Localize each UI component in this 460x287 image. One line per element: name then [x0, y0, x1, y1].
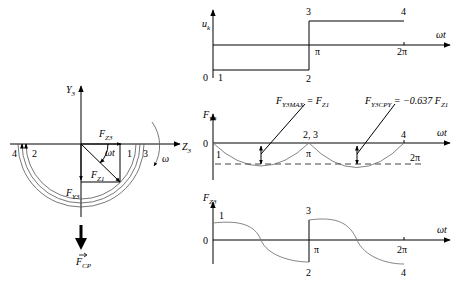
uk-p3: 3 [306, 6, 311, 17]
fz3-p4: 4 [401, 267, 406, 278]
vector-diagram: Y3 Z3 FZ3 FZ1 FY3 ωt ω 4 2 1 3 [10, 84, 192, 270]
uk-y-label: uk [202, 18, 211, 32]
fy3-y-label: FY3 [202, 109, 217, 123]
diagram-canvas: Y3 Z3 FZ3 FZ1 FY3 ωt ω 4 2 1 3 [0, 0, 460, 287]
chart-uk: uk ωt π 2π 0 1 2 3 4 [202, 6, 450, 84]
chart-fz3: FZ3 ωt 0 1 2 3 4 π 2π [202, 192, 450, 278]
fy3max-leader [261, 104, 305, 154]
fcp-label: FCP [75, 256, 92, 270]
fy3-origin: 0 [203, 138, 208, 149]
uk-origin: 0 [203, 72, 208, 83]
fz3-origin: 0 [203, 235, 208, 246]
fz3-x-label: ωt [437, 224, 447, 235]
point-2-label: 2 [32, 148, 37, 159]
fy3-p4: 4 [401, 129, 406, 140]
point-3-label: 3 [143, 148, 148, 159]
point-4-label: 4 [12, 148, 17, 159]
fy3-label: FY3 [65, 187, 80, 201]
z3-axis-label: Z3 [182, 141, 192, 155]
fz1-label: FZ1 [90, 169, 105, 183]
fz3-p3: 3 [306, 205, 311, 216]
uk-p2: 2 [306, 73, 311, 84]
fz3-p1: 1 [219, 210, 224, 221]
fy3-x-label: ωt [437, 127, 447, 138]
fcp-arrow-head [75, 238, 87, 250]
fy3cpy-annotation: FY3CPY = −0.637 FZ1 [364, 95, 448, 109]
fz3-y-label: FZ3 [202, 192, 217, 206]
uk-tick-pi: π [315, 46, 320, 57]
uk-tick-2pi-label: 2π [397, 46, 407, 57]
y3-axis-label: Y3 [66, 84, 76, 98]
fy3-tick-pi: π [306, 148, 311, 159]
fy3-p23: 2, 3 [303, 129, 318, 140]
fz3-wave-1 [213, 222, 309, 262]
fy3cpy-leader [357, 104, 395, 154]
fz3-tick-2pi-label: 2π [397, 244, 407, 255]
fz3-wave-2 [309, 219, 404, 264]
uk-p1: 1 [218, 72, 223, 83]
fz3-tick-pi: π [314, 244, 319, 255]
chart-fy3: FY3 ωt FY3MAX = FZ1 FY3CPY = −0.637 FZ1 … [202, 95, 450, 180]
omega-label: ω [162, 153, 169, 164]
point-1-label: 1 [127, 148, 132, 159]
fy3-p1: 1 [216, 149, 221, 160]
fy3-tick-2pi-label: 2π [410, 152, 420, 163]
angle-label: ωt [105, 147, 115, 158]
uk-x-label: ωt [436, 29, 446, 40]
fz3-p2: 2 [306, 267, 311, 278]
fz3-label: FZ3 [98, 128, 113, 142]
uk-p4: 4 [401, 6, 406, 17]
fy3max-annotation: FY3MAX = FZ1 [275, 95, 329, 109]
